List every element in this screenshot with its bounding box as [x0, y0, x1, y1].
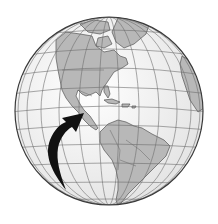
globe-illustration: Globe of the Western Hemisphere with an … — [0, 0, 218, 224]
